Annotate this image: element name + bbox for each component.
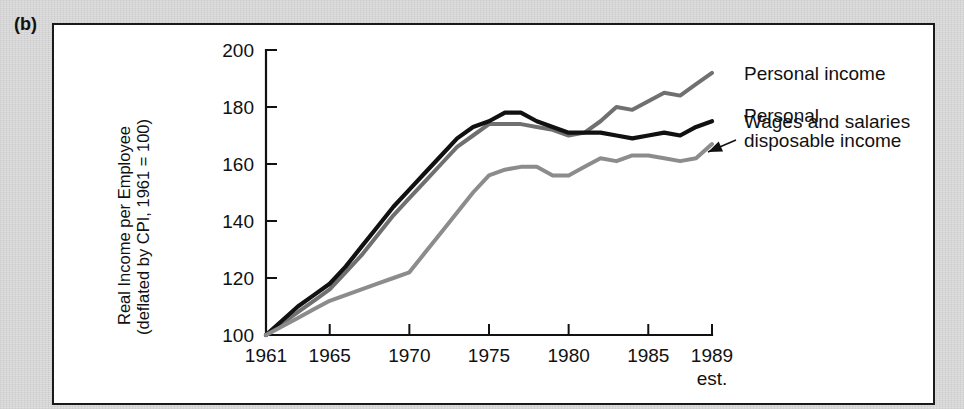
y-tick-label: 140 xyxy=(222,211,254,232)
y-tick-label: 160 xyxy=(222,154,254,175)
y-tick-label: 180 xyxy=(222,97,254,118)
x-tick-label: 1989 xyxy=(691,345,733,366)
y-axis-ticks: 100120140160180200 xyxy=(222,40,277,346)
y-tick-label: 120 xyxy=(222,268,254,289)
series-label-line2: disposable income xyxy=(744,130,901,151)
series-label-line1: Personal xyxy=(744,105,819,126)
x-axis-ticks: 1961196519701975198019851989est. xyxy=(245,324,733,389)
x-tick-label: 1961 xyxy=(245,345,287,366)
x-tick-label: 1985 xyxy=(627,345,669,366)
y-tick-label: 100 xyxy=(222,325,254,346)
annotations-group: Personal incomeWages and salariesPersona… xyxy=(708,63,910,152)
figure-container: (b) Real Income per Employee (deflated b… xyxy=(0,0,964,409)
data-series-group xyxy=(266,73,712,335)
x-tick-label: 1965 xyxy=(309,345,351,366)
panel-letter: (b) xyxy=(14,14,37,35)
series-line-personal-disposable-income xyxy=(266,144,712,335)
x-tick-label: 1975 xyxy=(468,345,510,366)
axes xyxy=(266,50,712,335)
series-label-personal-income: Personal income xyxy=(744,63,886,84)
y-axis-title: Real Income per Employee (deflated by CP… xyxy=(115,119,152,335)
y-axis-title-line1: Real Income per Employee xyxy=(115,126,133,325)
y-tick-label: 200 xyxy=(222,40,254,61)
x-tick-label: 1970 xyxy=(388,345,430,366)
x-tick-sublabel: est. xyxy=(697,368,728,389)
figure-card: Real Income per Employee (deflated by CP… xyxy=(52,23,935,405)
line-chart: Real Income per Employee (deflated by CP… xyxy=(54,25,933,403)
x-tick-label: 1980 xyxy=(548,345,590,366)
series-line-personal-income xyxy=(266,73,712,335)
y-axis-title-line2: (deflated by CPI, 1961 = 100) xyxy=(134,119,152,335)
